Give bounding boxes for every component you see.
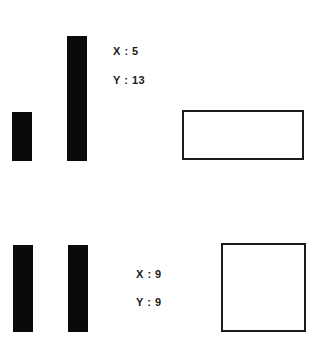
x-value-label: X : 9 [136, 268, 162, 280]
y-value-label: Y : 9 [136, 296, 162, 308]
bar-left [13, 245, 33, 332]
bar-short [12, 112, 32, 161]
rectangle-shape [182, 110, 304, 160]
x-value-label: X : 5 [113, 45, 139, 57]
bar-right [68, 245, 88, 332]
bar-tall [67, 36, 87, 161]
square-shape [221, 243, 306, 332]
y-value-label: Y : 13 [113, 74, 145, 86]
cut-off-heading [97, 0, 211, 4]
